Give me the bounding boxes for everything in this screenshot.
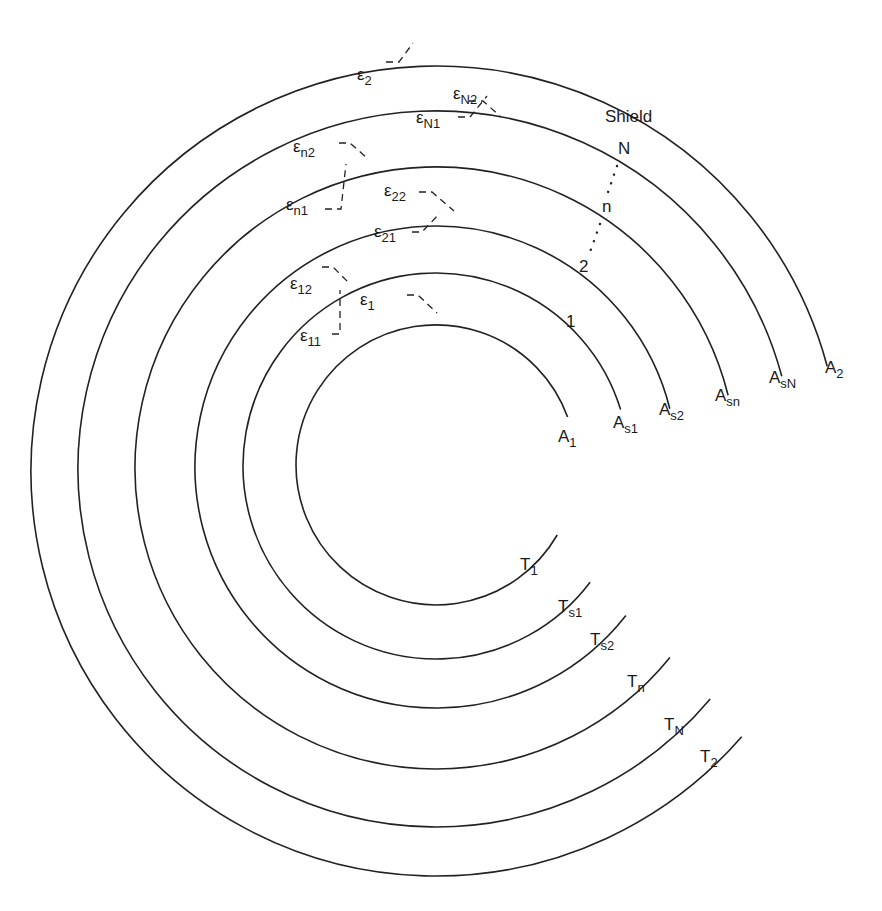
emissivity-labels: ε1 ε12 ε11 ε22 ε21 εn2 εn1 εN2 εN1 ε2 (286, 43, 500, 349)
index-1: 1 (566, 312, 575, 331)
emissivity-e1: ε1 (360, 290, 375, 313)
leader-e21 (412, 213, 440, 232)
ring-shield-N (78, 111, 782, 827)
leader-e11 (332, 290, 340, 334)
index-2: 2 (579, 257, 588, 276)
index-N: N (618, 139, 630, 158)
shield-label: Shield (605, 107, 652, 126)
area-As2: As2 (659, 400, 684, 423)
temp-Ts1: Ts1 (558, 597, 582, 620)
emissivity-en1: εn1 (286, 195, 308, 218)
area-Asn: Asn (715, 386, 740, 409)
dotted-leader-n-2 (590, 224, 600, 252)
leader-e2 (386, 43, 413, 62)
leader-en2 (339, 143, 367, 158)
emissivity-e2: ε2 (357, 65, 372, 88)
emissivity-e12: ε12 (290, 274, 312, 297)
radiation-shield-diagram: Shield N n 2 1 A1 As1 As2 Asn AsN A2 T1 … (0, 0, 882, 911)
area-AsN: AsN (769, 368, 796, 391)
leader-e22 (419, 192, 454, 211)
emissivity-e21: ε21 (374, 222, 396, 245)
temp-Tn: Tn (627, 672, 645, 695)
emissivity-eN2: εN2 (453, 84, 477, 107)
leader-e1 (407, 295, 437, 313)
leader-e12 (322, 267, 349, 283)
temp-TN: TN (664, 715, 684, 738)
emissivity-e22: ε22 (384, 181, 406, 204)
emissivity-e11: ε11 (300, 326, 321, 349)
index-n: n (602, 197, 611, 216)
area-A2: A2 (825, 358, 844, 381)
ring-shield-n (135, 167, 728, 769)
emissivity-en2: εn2 (293, 137, 315, 160)
area-A1: A1 (558, 427, 577, 450)
area-As1: As1 (613, 413, 638, 436)
temp-T2: T2 (700, 747, 718, 770)
dotted-leader-N-n (606, 166, 617, 198)
